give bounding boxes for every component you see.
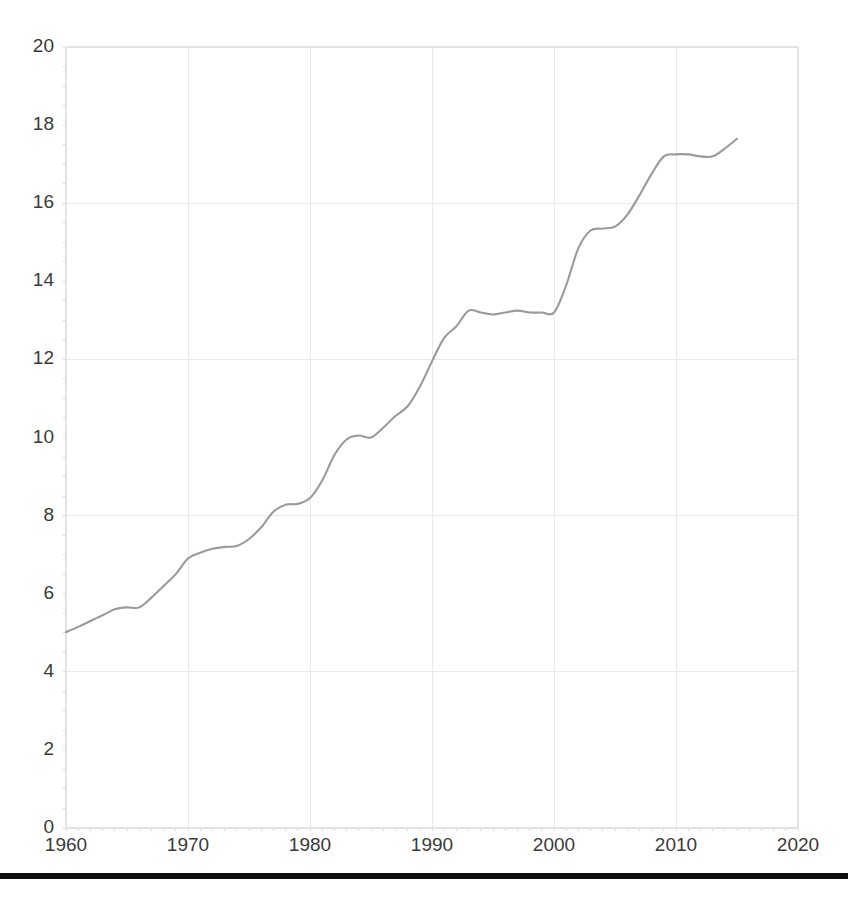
y-tick-label: 12: [33, 347, 54, 368]
gridlines: [66, 47, 798, 828]
y-tick-label: 10: [33, 426, 54, 447]
series-line: [66, 139, 737, 632]
x-tick-label: 2010: [655, 834, 697, 855]
y-tick-label: 16: [33, 191, 54, 212]
y-axis-tick-labels: 02468101214161820: [33, 35, 55, 837]
chart-canvas: 02468101214161820 1960197019801990200020…: [0, 0, 848, 899]
y-tick-label: 20: [33, 35, 54, 56]
y-tick-label: 4: [43, 660, 54, 681]
x-tick-label: 2000: [533, 834, 575, 855]
bottom-divider-rule: [0, 873, 848, 879]
x-tick-label: 1960: [45, 834, 87, 855]
y-tick-label: 2: [43, 738, 54, 759]
line-chart: 02468101214161820 1960197019801990200020…: [0, 0, 848, 899]
y-axis-minor-ticks: [63, 47, 798, 831]
data-series: [66, 139, 737, 632]
x-tick-label: 1990: [411, 834, 453, 855]
x-tick-label: 1980: [289, 834, 331, 855]
x-axis-tick-labels: 1960197019801990200020102020: [45, 834, 819, 855]
y-tick-label: 6: [43, 582, 54, 603]
x-tick-label: 2020: [777, 834, 819, 855]
y-tick-label: 18: [33, 113, 54, 134]
x-tick-label: 1970: [167, 834, 209, 855]
y-tick-label: 14: [33, 269, 55, 290]
y-tick-label: 8: [43, 504, 54, 525]
